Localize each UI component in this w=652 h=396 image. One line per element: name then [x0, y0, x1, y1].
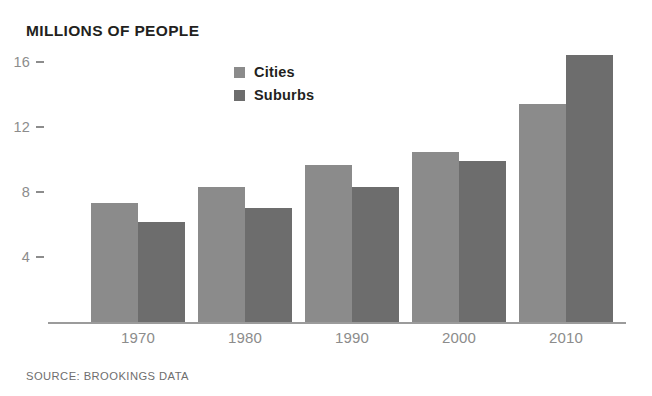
bar-suburbs-1970 — [138, 222, 185, 323]
bar-suburbs-1980 — [245, 208, 292, 323]
bar-group — [198, 187, 292, 324]
y-axis-tick-label: 4 — [22, 250, 30, 265]
bar-cities-2000 — [412, 152, 459, 323]
legend-item-suburbs: Suburbs — [234, 85, 314, 105]
bar-group — [91, 203, 185, 323]
page-title: MILLIONS OF PEOPLE — [26, 22, 199, 40]
y-axis-tick: 8 — [0, 183, 48, 201]
bar-group — [519, 55, 613, 323]
x-axis-label: 2000 — [399, 329, 519, 346]
y-axis-tick: 16 — [0, 53, 48, 71]
y-axis-tick: 4 — [0, 248, 48, 266]
x-axis-label: 1970 — [78, 329, 198, 346]
chart-legend: Cities Suburbs — [234, 62, 314, 108]
legend-label-cities: Cities — [254, 64, 295, 80]
bar-cities-1980 — [198, 187, 245, 324]
legend-swatch-suburbs — [234, 90, 245, 101]
y-axis-tick-label: 12 — [13, 120, 30, 135]
bar-chart-figure: MILLIONS OF PEOPLE 161284 Cities Suburbs… — [0, 0, 652, 396]
legend-label-suburbs: Suburbs — [254, 87, 314, 103]
bar-cities-1970 — [91, 203, 138, 323]
bar-cities-2010 — [519, 104, 566, 323]
bar-group — [412, 152, 506, 323]
y-axis-tick-dash — [36, 126, 44, 127]
bar-cities-1990 — [305, 165, 352, 323]
x-axis-label: 2010 — [506, 329, 626, 346]
legend-item-cities: Cities — [234, 62, 314, 82]
source-note: SOURCE: BROOKINGS DATA — [26, 370, 189, 382]
x-axis-label: 1990 — [292, 329, 412, 346]
y-axis-tick-dash — [36, 61, 44, 62]
legend-swatch-cities — [234, 67, 245, 78]
bar-suburbs-1990 — [352, 187, 399, 324]
y-axis-tick-dash — [36, 191, 44, 192]
bar-suburbs-2010 — [566, 55, 613, 323]
x-axis-line — [48, 322, 626, 324]
y-axis-tick: 12 — [0, 118, 48, 136]
y-axis-tick-label: 16 — [13, 55, 30, 70]
bar-group — [305, 165, 399, 323]
y-axis-tick-label: 8 — [22, 185, 30, 200]
plot-area — [48, 40, 626, 323]
bar-suburbs-2000 — [459, 161, 506, 324]
y-axis-tick-dash — [36, 256, 44, 257]
x-axis-label: 1980 — [185, 329, 305, 346]
